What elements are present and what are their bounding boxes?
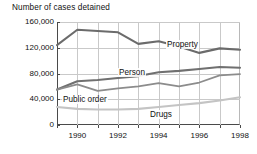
- x-axis-tick-label: 1996: [190, 132, 208, 140]
- series-label-property: Property: [166, 40, 199, 49]
- y-axis-tick: [57, 99, 60, 100]
- x-axis-tick-label: 1994: [150, 132, 168, 140]
- series-line-property: [57, 30, 240, 53]
- x-axis-tick: [138, 125, 139, 128]
- x-axis-tick: [220, 125, 221, 128]
- y-axis-tick-label: 120,000: [2, 44, 54, 52]
- x-axis-tick-label: 1998: [231, 132, 249, 140]
- line-chart: Number of cases detained 160,000120,0008…: [0, 0, 257, 154]
- series-label-public-order: Public order: [62, 95, 108, 104]
- x-axis-tick-label: 1990: [68, 132, 86, 140]
- x-axis-tick: [199, 125, 200, 128]
- x-axis-tick: [77, 125, 78, 128]
- series-label-person: Person: [118, 68, 146, 77]
- y-axis-tick: [57, 125, 60, 126]
- x-axis-tick: [98, 125, 99, 128]
- series-line-public-order: [57, 74, 240, 91]
- y-axis-tick-label: 40,000: [2, 95, 54, 103]
- y-axis-tick: [57, 22, 60, 23]
- y-axis-tick: [57, 74, 60, 75]
- x-axis-tick-label: 1992: [109, 132, 127, 140]
- x-axis-tick: [118, 125, 119, 128]
- y-axis-tick-label: 0: [2, 121, 54, 129]
- series-label-drugs: Drugs: [149, 110, 173, 119]
- y-axis-tick-label: 160,000: [2, 18, 54, 26]
- x-axis-tick: [159, 125, 160, 128]
- x-axis-tick: [240, 125, 241, 128]
- x-axis-tick: [179, 125, 180, 128]
- y-axis-tick: [57, 48, 60, 49]
- y-axis-labels: 160,000120,00080,00040,0000: [0, 0, 54, 154]
- y-axis-tick-label: 80,000: [2, 70, 54, 78]
